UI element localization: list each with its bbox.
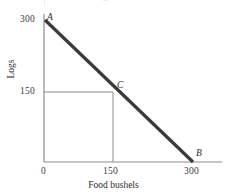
point-label-a: A bbox=[47, 12, 53, 22]
axes-lines bbox=[44, 14, 222, 162]
y-tick-label-300: 300 bbox=[20, 14, 35, 24]
guide-lines bbox=[44, 92, 113, 162]
point-label-c: C bbox=[117, 80, 123, 90]
ppf-chart: 300 150 0 150 300 A C B Logs Food bushel… bbox=[0, 0, 227, 195]
ppf-series bbox=[45, 20, 193, 162]
ppf-line bbox=[45, 20, 193, 162]
x-axis-title: Food bushels bbox=[0, 180, 227, 190]
y-axis-title: Logs bbox=[6, 49, 16, 89]
y-tick-label-150: 150 bbox=[20, 86, 35, 96]
x-tick-label-0: 0 bbox=[41, 166, 46, 176]
x-tick-label-300: 300 bbox=[184, 166, 199, 176]
point-label-b: B bbox=[196, 148, 202, 158]
x-tick-label-150: 150 bbox=[103, 166, 118, 176]
